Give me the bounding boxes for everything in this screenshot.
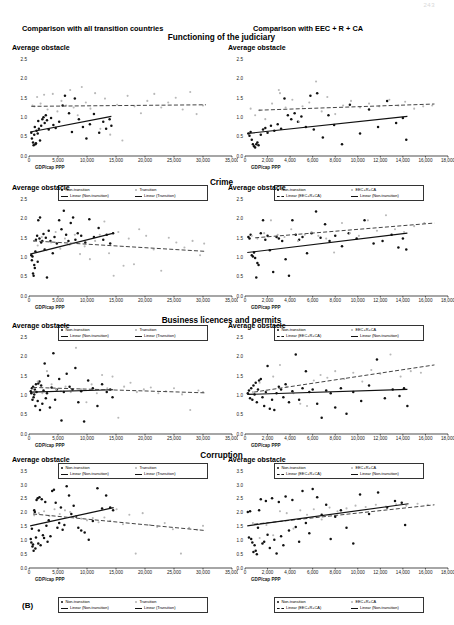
data-point [142, 512, 144, 514]
data-point [196, 113, 198, 115]
plot-corruption-right: 0.00.51.01.52.02.53.03.502,0004,0006,000… [228, 464, 454, 603]
data-point [251, 138, 254, 141]
data-point [258, 509, 261, 512]
data-point [280, 535, 283, 538]
chart-panel-judiciary-right: Average obstacle0.00.51.01.52.02.502,000… [228, 44, 454, 191]
y-tick-label: 2.5 [21, 496, 28, 501]
x-tick-label: 25,000 [167, 570, 181, 575]
data-point [83, 531, 86, 534]
y-tick-label: 2.0 [237, 510, 244, 515]
data-point [261, 396, 264, 399]
data-point [34, 126, 37, 128]
data-point [272, 534, 274, 536]
data-point [135, 553, 137, 555]
data-point [31, 527, 34, 530]
data-point [78, 118, 81, 121]
data-point [256, 141, 259, 144]
data-point [73, 106, 75, 108]
page-number: 243 [423, 2, 435, 8]
y-tick-label: 0.5 [237, 552, 244, 557]
trendline-solid [247, 504, 408, 526]
legend-dot-icon [277, 601, 279, 603]
data-point [256, 401, 259, 404]
data-point [266, 533, 269, 536]
data-point [300, 115, 303, 118]
data-point [251, 541, 254, 544]
data-point [31, 399, 34, 402]
data-point [167, 101, 169, 103]
legend-label: Linear (Non-transition) [360, 605, 399, 611]
data-point [69, 89, 71, 91]
legend-line-icon [135, 608, 142, 609]
data-point [257, 388, 260, 391]
data-point [299, 403, 301, 405]
data-point [71, 131, 74, 134]
data-point [340, 509, 343, 512]
data-point [43, 94, 45, 96]
data-point [189, 91, 191, 93]
data-point [52, 252, 55, 255]
data-point [43, 510, 45, 512]
data-point [46, 370, 48, 372]
data-point [60, 100, 62, 102]
data-point [160, 106, 162, 108]
data-point [410, 370, 412, 372]
data-point [251, 235, 253, 237]
data-point [254, 114, 256, 116]
column-header-right: Comparison with EEC + R + CA [253, 24, 363, 33]
data-point [39, 544, 42, 547]
x-tick-label: 2,000 [262, 158, 274, 163]
data-point [81, 86, 83, 88]
data-point [249, 510, 252, 513]
x-tick-label: 25,000 [167, 158, 181, 163]
x-tick-label: 30,000 [196, 298, 210, 303]
data-point [404, 524, 407, 527]
data-point [248, 135, 251, 138]
data-point [84, 241, 87, 244]
x-tick-label: 4,000 [284, 436, 296, 441]
x-tick-label: 0 [244, 570, 247, 575]
x-tick-label: 2,000 [262, 570, 274, 575]
x-tick-label: 10,000 [80, 298, 94, 303]
data-point [290, 118, 293, 121]
data-point [272, 376, 274, 378]
y-tick-label: 1.5 [237, 236, 244, 241]
y-tick-label: 1.0 [21, 393, 28, 398]
data-point [50, 117, 53, 120]
legend-dot-icon [351, 601, 353, 603]
data-point [56, 110, 58, 112]
data-point [386, 100, 389, 103]
data-point [52, 93, 54, 95]
x-axis-title: GDP/cap PPP [251, 443, 281, 448]
data-point [254, 382, 257, 385]
data-point [288, 529, 291, 532]
data-point [80, 518, 82, 520]
data-point [403, 231, 405, 233]
data-point [99, 128, 101, 130]
y-tick-label: 0.5 [237, 412, 244, 417]
data-point [359, 493, 362, 496]
legend-dot-icon [61, 601, 63, 603]
data-point [58, 522, 61, 525]
data-point [306, 252, 309, 255]
y-tick-label: 0.0 [237, 294, 244, 299]
x-axis-title: GDP/cap PPP [35, 165, 65, 170]
y-tick-label: 0.0 [237, 432, 244, 437]
plot-judiciary-left: 0.00.51.01.52.02.505,00010,00015,00020,0… [12, 52, 238, 191]
y-tick-label: 3.5 [237, 469, 244, 474]
x-tick-label: 6,000 [307, 158, 319, 163]
y-tick-label: 1.5 [237, 374, 244, 379]
data-point [42, 116, 45, 119]
y-tick-label: 2.5 [237, 496, 244, 501]
data-point [85, 137, 88, 140]
chart-panel-business-right: Average obstacle0.00.51.01.52.02.502,000… [228, 322, 454, 469]
y-tick-label: 1.0 [21, 255, 28, 260]
data-point [301, 387, 304, 390]
x-axis-title: GDP/cap PPP [251, 305, 281, 310]
plot-business-left: 0.00.51.01.52.02.505,00010,00015,00020,0… [12, 330, 238, 469]
data-point [33, 133, 36, 136]
data-point [36, 400, 39, 403]
data-point [180, 553, 182, 555]
x-tick-label: 8,000 [329, 436, 341, 441]
data-point [269, 408, 272, 411]
